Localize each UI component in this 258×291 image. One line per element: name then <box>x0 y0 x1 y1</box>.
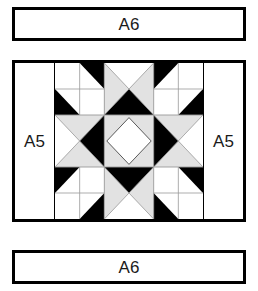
side-strip-left-label: A5 <box>24 133 45 150</box>
side-strip-right-label: A5 <box>213 133 234 150</box>
border-strip-top: A6 <box>12 7 246 41</box>
unit-r2c3-qst-point-left <box>154 115 203 167</box>
center-star-block <box>55 63 203 219</box>
unit-r1c2-qst-point-down <box>104 63 153 115</box>
unit-r3c1-four-patch-hst <box>55 167 104 219</box>
unit-r1c3-four-patch-hst <box>154 63 203 115</box>
border-strip-bottom: A6 <box>12 250 246 284</box>
border-strip-bottom-label: A6 <box>119 259 140 276</box>
unit-r2c1-qst-point-right <box>55 115 104 167</box>
block-frame: A5 <box>12 60 246 222</box>
unit-r2c2-square-on-point <box>104 115 153 167</box>
star-block-graphic <box>55 63 203 219</box>
unit-r1c1-four-patch-hst <box>55 63 104 115</box>
unit-r3c3-four-patch-hst <box>154 167 203 219</box>
border-strip-top-label: A6 <box>119 16 140 33</box>
side-strip-right: A5 <box>203 63 243 219</box>
side-strip-left: A5 <box>15 63 55 219</box>
unit-r3c2-qst-point-up <box>104 167 153 219</box>
